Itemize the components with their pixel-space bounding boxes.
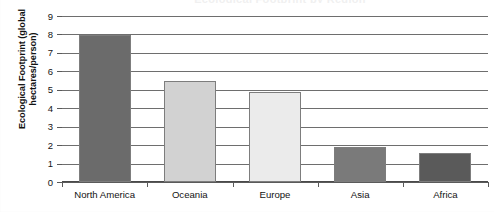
bar-slot — [232, 16, 317, 182]
bar-slot — [403, 16, 488, 182]
x-tick-mark — [233, 182, 234, 187]
y-tick-label: 0 — [48, 178, 53, 188]
x-axis-line — [62, 182, 489, 183]
y-axis-tick-labels: 9 8 7 6 5 4 3 2 1 0 — [0, 0, 62, 212]
x-tick-mark — [318, 182, 319, 187]
y-tick-label: 5 — [48, 85, 53, 95]
bar-slot — [318, 16, 403, 182]
bar-asia — [334, 147, 386, 182]
x-axis-label-north-america: North America — [62, 189, 147, 201]
chart-title: Ecological Footprint by Region — [120, 0, 440, 3]
x-tick-mark — [147, 182, 148, 187]
bar-oceania — [164, 81, 216, 182]
y-tick-label: 8 — [48, 30, 53, 40]
bar-north-america — [79, 35, 131, 182]
x-tick-mark — [403, 182, 404, 187]
x-axis-label-oceania: Oceania — [147, 189, 232, 201]
x-tick-mark — [488, 182, 489, 187]
bar-slot — [62, 16, 147, 182]
y-tick-label: 9 — [48, 12, 53, 22]
y-tick-label: 1 — [48, 159, 53, 169]
plot-area — [62, 16, 488, 182]
bar-chart: Ecological Footprint by Region Ecologica… — [0, 0, 494, 212]
x-axis-label-asia: Asia — [318, 189, 403, 201]
x-tick-mark — [62, 182, 63, 187]
y-tick-label: 3 — [48, 122, 53, 132]
y-tick-label: 6 — [48, 67, 53, 77]
x-axis-label-europe: Europe — [232, 189, 317, 201]
y-tick-label: 4 — [48, 104, 53, 114]
bar-europe — [249, 92, 301, 182]
x-axis-label-africa: Africa — [403, 189, 488, 201]
y-tick-label: 2 — [48, 141, 53, 151]
y-tick-label: 7 — [48, 48, 53, 58]
bar-slot — [147, 16, 232, 182]
bar-africa — [419, 153, 471, 182]
